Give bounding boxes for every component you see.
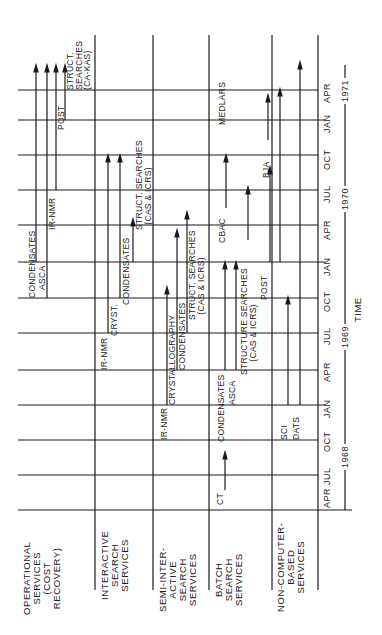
row-label-operational: OPERATIONAL SERVICES (COST RECOVERY) xyxy=(22,542,62,615)
row-label-semi-interactive: SEMI-INTER- ACTIVE SEARCH SERVICES xyxy=(158,547,198,612)
tick-apr-1971: APR xyxy=(322,83,332,103)
event-interactive-cryst: CRYST. xyxy=(110,304,119,336)
year-1969: 1969 xyxy=(340,324,350,350)
event-semi-crystallography: CRYSTALLOGRAPHY xyxy=(168,315,177,405)
event-operational-asca: ASCA xyxy=(38,266,47,290)
tick-jul-1970: JUL xyxy=(322,185,332,203)
tick-apr-1968: APR xyxy=(322,488,332,508)
event-operational-ir-nmr: IR-NMR xyxy=(48,198,57,231)
tick-apr-1969: APR xyxy=(322,362,332,382)
row-label-non-computer: NON-COMPUTER- BASED SERVICES xyxy=(276,522,306,612)
event-interactive-condensates: CONDENSATES xyxy=(122,238,131,305)
axis-label-time: TIME xyxy=(352,297,363,322)
year-1971: 1971 xyxy=(340,78,350,104)
event-batch-condensates: CONDENSATES xyxy=(217,375,226,442)
tick-oct-1969: OCT xyxy=(322,292,332,313)
event-noncomputer-bja: BJA xyxy=(262,162,271,179)
event-batch-medlars: MEDLARS xyxy=(218,82,227,125)
row-label-interactive: INTERACTIVE SEARCH SERVICES xyxy=(100,531,130,600)
year-1970: 1970 xyxy=(340,186,350,212)
tick-apr-1970: APR xyxy=(322,220,332,240)
row-label-batch: BATCH SEARCH SERVICES xyxy=(214,553,244,606)
event-interactive-ir-nmr: IR-NMR xyxy=(100,338,109,371)
tick-jul-1969: JUL xyxy=(322,327,332,345)
event-operational-struct-searches: STRUCT. SEARCHES (CA-KAS) xyxy=(66,41,92,90)
event-semi-struct-searches: STRUCT. SEARCHES (CAS & ICRS) xyxy=(188,230,205,320)
event-noncomputer-sci: SCI xyxy=(280,425,289,440)
tick-oct-1968: OCT xyxy=(322,432,332,453)
event-batch-ct: CT xyxy=(216,493,225,505)
tick-jan-1969: JAN xyxy=(322,399,332,418)
event-batch-structure-searches: STRUCTURE SEARCHES (CAS & ICRS) xyxy=(240,268,257,375)
event-semi-condensates: CONDENSATES xyxy=(178,303,187,370)
event-operational-condensates: CONDENSATES xyxy=(28,231,37,298)
tick-jul-1968: JUL xyxy=(322,467,332,485)
event-batch-cbac: CBAC xyxy=(218,218,227,243)
event-semi-ir-nmr: IR-NMR xyxy=(160,408,169,441)
event-noncomputer-post: POST xyxy=(260,276,269,300)
tick-jan-1970: JAN xyxy=(322,257,332,276)
event-interactive-struct-searches: STRUCT. SEARCHES (CAS & ICRS) xyxy=(135,140,152,230)
event-operational-post: POST xyxy=(57,106,66,130)
year-1968: 1968 xyxy=(340,444,350,470)
event-batch-asca: ASCA xyxy=(228,381,237,405)
event-noncomputer-dats: DATS xyxy=(292,417,301,440)
tick-oct-1970: OCT xyxy=(322,150,332,171)
tick-jan-1971: JAN xyxy=(322,114,332,133)
